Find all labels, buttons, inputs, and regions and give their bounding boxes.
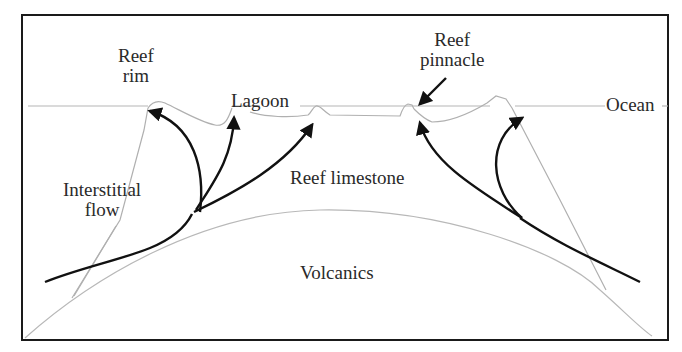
left-flow-arrow-to-rim: [150, 111, 201, 212]
pinnacle-pointer-arrow: [420, 78, 446, 104]
left-reef-rim-outline: [148, 102, 232, 126]
label-reef-rim-line1: Reef: [118, 46, 154, 66]
label-interstitial-flow: Interstitial flow: [63, 180, 141, 220]
label-reef-limestone: Reef limestone: [290, 168, 405, 188]
right-main-flow: [520, 218, 640, 282]
right-reef-rim-outline: [414, 96, 512, 122]
label-reef-rim-line2: rim: [118, 66, 154, 86]
label-ocean: Ocean: [606, 95, 655, 115]
label-reef-pinnacle-line2: pinnacle: [420, 50, 484, 70]
right-reef-slope: [512, 108, 606, 290]
right-flow-arrow-to-pinnacle: [420, 123, 522, 218]
label-reef-rim: Reef rim: [118, 46, 154, 86]
label-volcanics: Volcanics: [300, 263, 374, 283]
left-main-flow: [45, 214, 192, 282]
label-interstitial-flow-line1: Interstitial: [63, 180, 141, 200]
label-reef-pinnacle: Reef pinnacle: [420, 30, 484, 70]
label-lagoon: Lagoon: [231, 91, 289, 111]
label-interstitial-flow-line2: flow: [63, 200, 141, 220]
label-reef-pinnacle-line1: Reef: [420, 30, 484, 50]
